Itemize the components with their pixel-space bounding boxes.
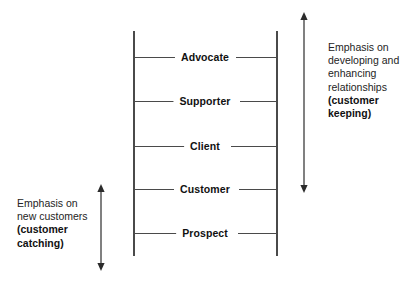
- rung-line-right-customer: [239, 189, 278, 190]
- note-line-bold: (customer: [328, 94, 399, 107]
- ladder-step-supporter[interactable]: Supporter: [173, 95, 236, 107]
- ladder-step-prospect[interactable]: Prospect: [176, 227, 234, 239]
- ladder-step-customer[interactable]: Customer: [174, 183, 236, 195]
- customer-keeping-note: Emphasis on developing and enhancing rel…: [328, 41, 399, 120]
- note-line: relationships: [328, 81, 399, 94]
- rung-line-right-client: [231, 146, 278, 147]
- rung-line-left-advocate: [133, 57, 175, 58]
- ladder-step-advocate[interactable]: Advocate: [175, 51, 235, 63]
- rung-line-right-prospect: [238, 233, 278, 234]
- ladder-rail-left: [133, 31, 135, 256]
- note-line-bold: catching): [17, 237, 88, 250]
- note-line: developing and: [328, 54, 399, 67]
- rung-line-right-advocate: [236, 57, 278, 58]
- note-line: Emphasis on: [17, 197, 88, 210]
- rung-line-left-prospect: [133, 233, 177, 234]
- ladder-step-client[interactable]: Client: [184, 140, 226, 152]
- note-line-bold: keeping): [328, 107, 399, 120]
- customer-catching-arrow-icon: [93, 181, 109, 273]
- diagram-canvas: Advocate Supporter Client Customer Prosp…: [0, 0, 412, 281]
- note-line-bold: (customer: [17, 223, 88, 236]
- note-line: enhancing: [328, 67, 399, 80]
- ladder-rail-right: [276, 31, 278, 256]
- customer-catching-note: Emphasis on new customers (customer catc…: [17, 197, 88, 250]
- note-line: Emphasis on: [328, 41, 399, 54]
- rung-line-left-customer: [133, 189, 174, 190]
- rung-line-left-supporter: [133, 101, 175, 102]
- rung-line-right-supporter: [240, 101, 278, 102]
- customer-keeping-arrow-icon: [296, 10, 312, 195]
- note-line: new customers: [17, 210, 88, 223]
- rung-line-left-client: [133, 146, 185, 147]
